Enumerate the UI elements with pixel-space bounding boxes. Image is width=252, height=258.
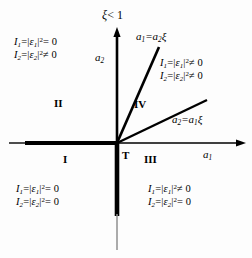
tl1-rel: = 0 [43,36,57,47]
bl2-rel: = 0 [45,196,59,207]
region-II-label: II [54,97,63,110]
condition-top-left-line1: I1=|ε1|2= 0 [14,36,57,49]
x-axis-label: a1 [203,148,212,163]
tr1-rel: ≠ 0 [189,57,203,68]
tr2-rel: ≠ 0 [189,70,203,81]
y-axis-label-sub: 2 [101,57,105,65]
x-axis-label-sub: 1 [209,154,213,162]
shallow-xi: ξ [198,113,203,125]
condition-top-left-line2: I2=|ε2|2≠ 0 [14,49,57,62]
region-III-label: III [144,153,157,166]
shallow-line-equation-label: a2=a1ξ [172,113,202,128]
condition-bottom-right-line2: I2=|ε2|2= 0 [148,196,191,209]
condition-top-right: I1=|ε1|2≠ 0 I2=|ε2|2≠ 0 [160,57,203,84]
region-I-label: I [63,153,67,166]
steep-line-equation-label: a1=a2ξ [136,30,166,45]
condition-top-right-line2: I2=|ε2|2≠ 0 [160,70,203,83]
br2-rel: = 0 [177,196,191,207]
condition-bottom-left-line1: I1=|ε1|2= 0 [16,183,59,196]
br1-rel: ≠ 0 [177,183,191,194]
condition-bottom-right: I1=|ε1|2≠ 0 I2=|ε2|2= 0 [148,183,191,210]
steep-boundary-line [117,47,159,143]
condition-bottom-left: I1=|ε1|2= 0 I2=|ε2|2= 0 [16,183,59,210]
y-axis-arrowhead [113,27,120,37]
xi-relation: < 1 [107,8,123,22]
region-T-label: T [122,149,129,162]
steep-xi: ξ [162,30,167,42]
steep-eq: = [145,30,152,42]
y-axis-label: a2 [95,51,104,66]
region-IV-label: IV [134,98,146,111]
bl1-rel: = 0 [45,183,59,194]
xi-condition-label: ξ< 1 [102,8,123,23]
condition-top-right-line1: I1=|ε1|2≠ 0 [160,57,203,70]
condition-bottom-right-line1: I1=|ε1|2≠ 0 [148,183,191,196]
shallow-eq: = [181,113,188,125]
diagram-canvas: ξ< 1 a1=a2ξ a2=a1ξ a2 a1 II IV I T III I… [0,0,252,258]
condition-top-left: I1=|ε1|2= 0 I2=|ε2|2≠ 0 [14,36,57,63]
condition-bottom-left-line2: I2=|ε2|2= 0 [16,196,59,209]
tl2-rel: ≠ 0 [43,49,57,60]
x-axis-arrowhead [236,139,246,146]
